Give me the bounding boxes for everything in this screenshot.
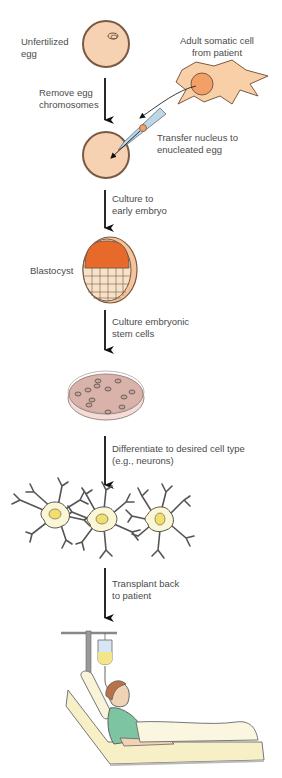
enucleated-egg-icon	[83, 132, 129, 178]
petri-dish-icon	[68, 371, 144, 420]
blastocyst-icon	[83, 237, 137, 303]
cloning-diagram-art	[0, 0, 282, 778]
label-unfertilized-egg: Unfertilized egg	[21, 36, 69, 60]
label-blastocyst: Blastocyst	[30, 265, 73, 277]
neuron-bodies	[41, 502, 173, 532]
unfertilized-egg-icon	[83, 21, 129, 67]
label-culture-embryo: Culture to early embryo	[112, 193, 167, 217]
label-transfer-nucleus: Transfer nucleus to enucleated egg	[157, 132, 238, 156]
patient-in-bed-icon	[66, 671, 264, 766]
label-transplant: Transplant back to patient	[112, 578, 179, 602]
label-remove-chromosomes: Remove egg chromosomes	[39, 87, 99, 111]
label-culture-stem-cells: Culture embryonic stem cells	[112, 316, 189, 340]
label-adult-somatic-cell: Adult somatic cell from patient	[180, 35, 254, 59]
label-differentiate: Differentiate to desired cell type (e.g.…	[112, 443, 245, 467]
